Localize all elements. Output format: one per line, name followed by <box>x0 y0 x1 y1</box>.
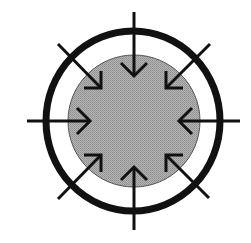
arrow-top-icon <box>121 12 147 76</box>
arrow-right-icon <box>179 108 240 134</box>
inward-pressure-diagram: Inward compression diagram: shaded inner… <box>0 0 251 243</box>
arrow-left-icon <box>27 108 90 134</box>
arrow-bottom-icon <box>121 167 147 230</box>
